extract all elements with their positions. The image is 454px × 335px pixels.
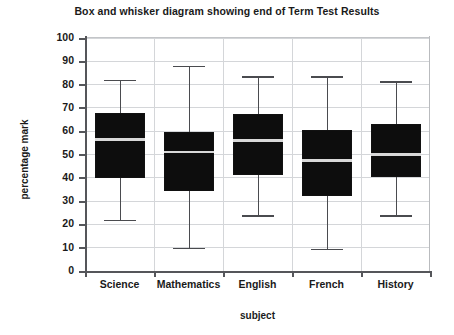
lower-whisker-stem [189,191,191,248]
category-separator-2 [223,37,224,272]
gridline-20 [85,224,430,225]
x-tick-5 [430,271,432,277]
x-tick-label-science: Science [85,278,154,290]
x-tick-4 [361,271,363,277]
median-line [164,151,214,154]
y-tick-40 [79,177,86,179]
iqr-box [371,124,421,176]
upper-whisker-cap [242,76,274,78]
y-tick-label-20: 20 [16,217,74,229]
lower-whisker-stem [258,175,260,215]
y-tick-10 [79,247,86,249]
y-tick-label-70: 70 [16,101,74,113]
y-tick-100 [79,38,86,40]
upper-whisker-cap [104,80,136,82]
category-separator-3 [292,37,293,272]
x-tick-label-mathematics: Mathematics [154,278,223,290]
y-tick-label-80: 80 [16,78,74,90]
x-axis-line [84,271,431,273]
upper-whisker-stem [189,66,191,132]
upper-whisker-cap [173,66,205,68]
y-tick-label-60: 60 [16,124,74,136]
x-tick-1 [154,271,156,277]
lower-whisker-cap [173,248,205,250]
y-tick-label-50: 50 [16,148,74,160]
y-tick-label-90: 90 [16,54,74,66]
y-tick-50 [79,154,86,156]
lower-whisker-stem [120,178,122,220]
x-tick-label-english: English [223,278,292,290]
median-line [371,153,421,156]
y-tick-70 [79,107,86,109]
lower-whisker-cap [380,215,412,217]
lower-whisker-cap [311,249,343,251]
lower-whisker-stem [396,177,398,215]
y-tick-20 [79,224,86,226]
median-line [233,139,283,142]
lower-whisker-cap [104,220,136,222]
median-line [95,138,145,141]
plot-frame-top [85,37,430,38]
upper-whisker-stem [327,76,329,130]
y-tick-80 [79,84,86,86]
lower-whisker-cap [242,215,274,217]
x-axis-label: subject [85,310,430,321]
median-line [302,159,352,162]
y-tick-label-30: 30 [16,194,74,206]
y-tick-label-10: 10 [16,241,74,253]
x-tick-3 [292,271,294,277]
x-tick-2 [223,271,225,277]
y-tick-90 [79,61,86,63]
plot-frame-right [429,36,430,273]
upper-whisker-stem [120,80,122,113]
category-separator-1 [154,37,155,272]
y-tick-30 [79,201,86,203]
y-tick-60 [79,131,86,133]
gridline-90 [85,61,430,62]
upper-whisker-stem [258,76,260,113]
chart-title: Box and whisker diagram showing end of T… [0,5,454,17]
x-tick-label-french: French [292,278,361,290]
lower-whisker-stem [327,196,329,248]
iqr-box [233,114,283,176]
upper-whisker-cap [380,81,412,83]
gridline-10 [85,247,430,248]
category-separator-4 [361,37,362,272]
box-whisker-chart: Box and whisker diagram showing end of T… [0,0,454,335]
upper-whisker-stem [396,81,398,124]
gridline-100 [85,38,430,39]
upper-whisker-cap [311,76,343,78]
x-tick-label-history: History [361,278,430,290]
y-tick-label-100: 100 [16,31,74,43]
y-tick-label-0: 0 [16,264,74,276]
iqr-box [95,113,145,178]
iqr-box [302,130,352,196]
x-tick-0 [85,271,87,277]
y-tick-label-40: 40 [16,171,74,183]
iqr-box [164,132,214,190]
